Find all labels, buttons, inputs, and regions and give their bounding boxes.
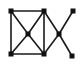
graph-node: [70, 54, 75, 59]
graph-node: [9, 52, 14, 57]
graph-canvas: [0, 0, 84, 66]
graph-node: [42, 9, 47, 14]
graph-edge: [44, 11, 59, 34]
edge-layer: [11, 11, 73, 56]
graph-node: [42, 52, 47, 57]
graph-edge: [11, 34, 28, 54]
graph-edge: [11, 11, 28, 34]
graph-node: [71, 9, 76, 14]
graph-edge: [59, 11, 73, 34]
graph-node: [57, 32, 62, 37]
graph-edge: [28, 11, 44, 34]
graph-edge: [44, 34, 59, 54]
graph-node: [9, 9, 14, 14]
graph-edge: [59, 34, 72, 56]
graph-node: [26, 32, 31, 37]
graph-edge: [28, 34, 44, 54]
graph-figure: [0, 0, 84, 66]
